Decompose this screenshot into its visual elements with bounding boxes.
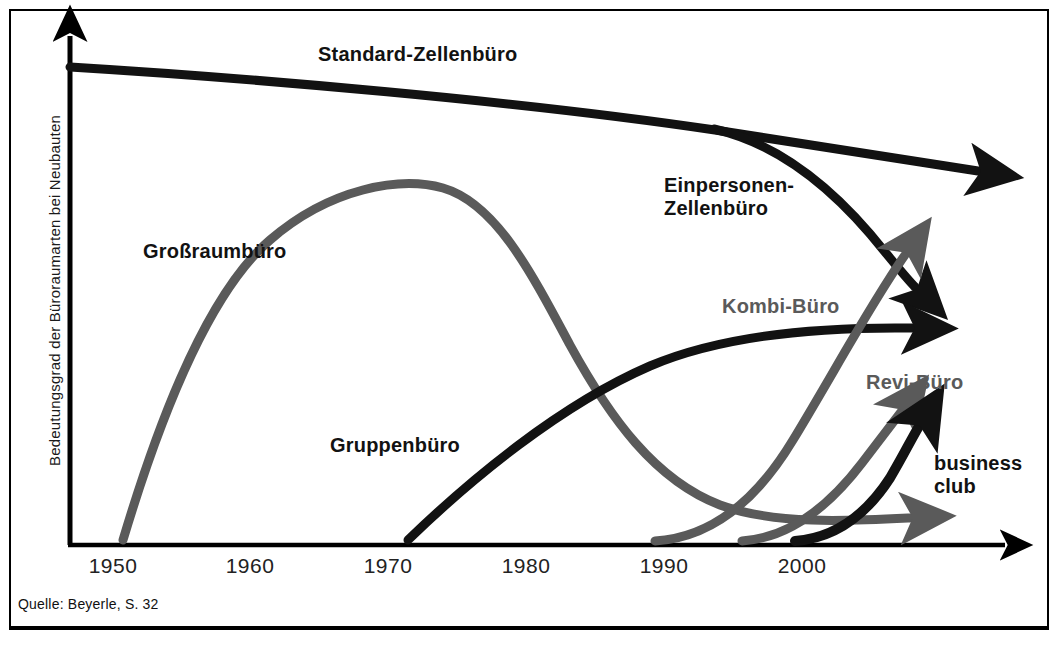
label-revi-buero: Revi-Büro <box>866 371 963 394</box>
x-tick-1960: 1960 <box>205 554 295 578</box>
label-grossraumbuero: Großraumbüro <box>143 240 287 263</box>
y-axis-title: Bedeutungsgrad der Büroraumarten bei Neu… <box>46 41 63 541</box>
x-tick-1990: 1990 <box>619 554 709 578</box>
label-kombi-buero: Kombi-Büro <box>722 295 840 318</box>
x-tick-1950: 1950 <box>68 554 158 578</box>
label-business-club: business club <box>934 452 1022 498</box>
x-tick-1970: 1970 <box>343 554 433 578</box>
source-note: Quelle: Beyerle, S. 32 <box>18 596 159 612</box>
label-standard-zellenbuero: Standard-Zellenbüro <box>318 43 517 66</box>
chart-frame <box>9 9 1049 628</box>
x-tick-2000: 2000 <box>757 554 847 578</box>
bottom-rule <box>9 627 1049 630</box>
office-type-significance-figure: Bedeutungsgrad der Büroraumarten bei Neu… <box>0 0 1060 662</box>
label-einpersonen-zellenbuero: Einpersonen- Zellenbüro <box>664 174 794 220</box>
x-tick-1980: 1980 <box>481 554 571 578</box>
label-gruppenbuero: Gruppenbüro <box>330 434 460 457</box>
